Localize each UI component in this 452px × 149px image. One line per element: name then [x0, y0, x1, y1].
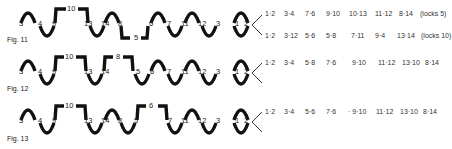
pair: 7·6: [305, 10, 326, 17]
pair: 5·8: [305, 59, 326, 66]
node-label: 1: [235, 68, 239, 76]
node-label: 2: [244, 68, 248, 76]
node-label: 3: [216, 20, 220, 28]
figure-label: Fig. 11: [7, 36, 28, 43]
node-label: 14: [101, 68, 109, 76]
pair: 5·6: [305, 108, 326, 115]
node-label: 8: [118, 20, 122, 28]
pair: 13·14: [397, 32, 421, 39]
node-label: 8: [116, 53, 120, 61]
node-label: 6: [149, 102, 153, 110]
pair-row: 1·2 3·4 7·6 9·10 10·13 11·12 8·14 (locks…: [265, 10, 446, 17]
node-label: 7: [167, 20, 171, 28]
pair: 9·10: [326, 10, 349, 17]
node-label: 4: [38, 117, 42, 125]
pair-row: 1·2 3·4 5·8 7·6 9·10 11·12 13·10 8·14: [265, 59, 439, 66]
node-label: 1: [235, 20, 239, 28]
pair: 1·2: [265, 32, 284, 39]
node-label: 5: [136, 68, 140, 76]
node-label: 5: [134, 34, 138, 42]
pair: 3·12: [284, 32, 305, 39]
pair: 9·4: [375, 32, 397, 39]
pair: 8·14: [423, 108, 437, 115]
node-label: 9: [52, 20, 56, 28]
pair: 1·2: [265, 59, 284, 66]
node-label: 13: [84, 68, 92, 76]
figure-label: Fig. 12: [7, 85, 28, 92]
pair: 3·4: [284, 59, 305, 66]
pair: 11·12: [376, 108, 400, 115]
pair: 1·2: [265, 108, 284, 115]
node-label: 7: [167, 68, 171, 76]
node-label: 11: [181, 20, 189, 28]
pair: 13·10: [400, 108, 423, 115]
node-label: 9: [52, 68, 56, 76]
node-label: 13: [84, 20, 92, 28]
node-label: 7: [168, 117, 172, 125]
node-label: 11: [181, 117, 189, 125]
node-label: 11: [181, 68, 189, 76]
node-label: 12: [198, 68, 206, 76]
node-label: 3: [19, 20, 23, 28]
node-label: 14: [101, 20, 109, 28]
pair: 1·2: [265, 10, 284, 17]
node-label: 12: [198, 20, 206, 28]
node-label: 5: [134, 117, 138, 125]
lock-note: (locks 5): [420, 10, 446, 17]
node-label: 12: [198, 117, 206, 125]
node-label: 9: [52, 117, 56, 125]
pair: 7·11: [351, 32, 375, 39]
node-label: 2: [244, 117, 248, 125]
node-label: 4: [38, 68, 42, 76]
node-label: 4: [38, 20, 42, 28]
node-label: 10: [65, 53, 73, 61]
node-label: 6: [149, 20, 153, 28]
node-label: 10: [65, 102, 73, 110]
pair: 5·6: [305, 32, 326, 39]
node-label: 3: [216, 117, 220, 125]
node-label: 3: [216, 68, 220, 76]
pair: 7·6: [326, 108, 348, 115]
node-label: 6: [150, 68, 154, 76]
node-label: 3: [19, 68, 23, 76]
pair: 3·4: [284, 10, 305, 17]
node-label: 13: [84, 117, 92, 125]
pair-row: 1·2 3·4 5·6 7·6 · 9·10 11·12 13·10 8·14: [265, 108, 437, 115]
node-label: 1: [235, 117, 239, 125]
pair-row: 1·2 3·12 5·6 5·8 7·11 9·4 13·14 (locks 1…: [265, 32, 451, 39]
pair: · 9·10: [348, 108, 376, 115]
lock-note: (locks 10): [421, 32, 451, 39]
pair: 5·8: [326, 32, 351, 39]
node-label: 10: [67, 5, 75, 13]
node-label: 14: [101, 117, 109, 125]
node-label: 2: [244, 20, 248, 28]
pair: 7·6: [326, 59, 352, 66]
pair: 10·13: [349, 10, 375, 17]
pair: 9·10: [352, 59, 378, 66]
figure-label: Fig. 13: [7, 135, 28, 142]
pair: 13·10: [402, 59, 425, 66]
pair: 11·12: [378, 59, 402, 66]
pair: 8·14: [425, 59, 439, 66]
pair: 11·12: [375, 10, 399, 17]
pair: 8·14: [399, 10, 420, 17]
node-label: 8: [118, 117, 122, 125]
node-label: 3: [19, 117, 23, 125]
pair: 3·4: [284, 108, 305, 115]
